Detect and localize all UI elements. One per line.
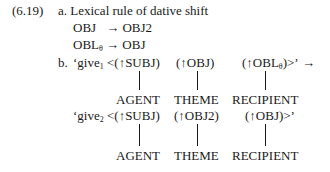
part-b-label: b. — [58, 56, 68, 69]
role-recipient: RECIPIENT — [232, 93, 298, 106]
role-theme: THEME — [174, 93, 219, 106]
give1-arg3: (↑OBLθ)>’ → — [242, 56, 315, 69]
give2-arg2: (↑OBJ2) — [174, 109, 219, 122]
link-line — [139, 71, 140, 90]
part-a-label: a. Lexical rule of dative shift — [58, 4, 208, 17]
arrow-icon: → — [106, 37, 119, 52]
rule-2-lhs: OBL — [73, 37, 99, 52]
rule-1-rhs: OBJ2 — [122, 20, 152, 35]
rule-2-rhs: OBJ — [122, 37, 145, 52]
rule-2-lhs-subscript: θ — [99, 44, 103, 53]
role-theme: THEME — [174, 149, 219, 162]
give1-arg2: (↑OBJ) — [176, 56, 214, 69]
link-line — [265, 124, 266, 146]
give2-arg3: (↑OBJ)>’ — [245, 109, 295, 122]
arrow-icon: → — [106, 20, 119, 35]
give2-subj: <(↑SUBJ) — [107, 108, 160, 123]
give1-arg3-head: (↑OBL — [242, 55, 279, 70]
give1-predicate: ‘give1 <(↑SUBJ) — [73, 56, 160, 69]
give2-pred-subscript: 2 — [100, 115, 104, 124]
give1-pred-subscript: 1 — [100, 62, 104, 71]
give2-predicate: ‘give2 <(↑SUBJ) — [73, 109, 160, 122]
role-agent: AGENT — [116, 149, 160, 162]
give2-pred: ‘give — [73, 108, 100, 123]
rule-1-lhs: OBJ — [73, 20, 96, 35]
arrow-icon: → — [302, 55, 315, 70]
give1-pred: ‘give — [73, 55, 100, 70]
link-line — [265, 71, 266, 90]
role-agent: AGENT — [116, 93, 160, 106]
example-number: (6.19) — [12, 4, 43, 17]
link-line — [197, 124, 198, 146]
rule-1: OBJ→ OBJ2 — [73, 21, 152, 34]
rule-2: OBLθ → OBJ — [73, 38, 145, 51]
link-line — [197, 71, 198, 90]
role-recipient: RECIPIENT — [232, 149, 298, 162]
give1-subj: <(↑SUBJ) — [107, 55, 160, 70]
link-line — [139, 124, 140, 146]
give1-arg3-close: )>’ — [283, 55, 299, 70]
